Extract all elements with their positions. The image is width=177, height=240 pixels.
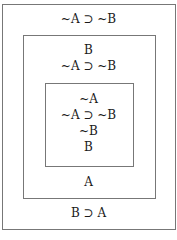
outer-conclusion: B ⊃ A bbox=[0, 206, 177, 220]
outer-premise: ~A ⊃ ~B bbox=[0, 12, 177, 26]
inner-reiteration: ~A ⊃ ~B bbox=[0, 108, 177, 122]
middle-conclusion: A bbox=[0, 175, 177, 189]
middle-assumption: B bbox=[0, 43, 177, 57]
inner-assumption: ~A bbox=[0, 92, 177, 106]
inner-derived-not-b: ~B bbox=[0, 124, 177, 138]
middle-reiteration: ~A ⊃ ~B bbox=[0, 59, 177, 73]
inner-reiterated-b: B bbox=[0, 140, 177, 154]
